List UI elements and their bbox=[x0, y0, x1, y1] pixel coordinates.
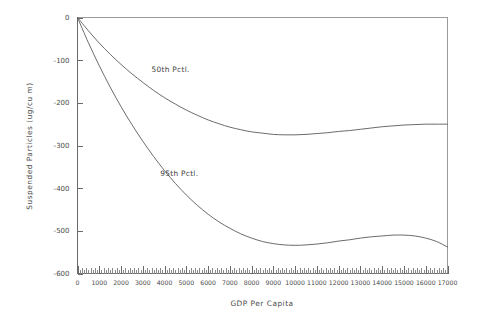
y-tick-label: 0 bbox=[65, 14, 69, 22]
x-tick-label: 8000 bbox=[244, 279, 260, 286]
x-tick-label: 11000 bbox=[307, 279, 327, 286]
x-tick-label: 3000 bbox=[135, 279, 151, 286]
y-tick-label: -300 bbox=[54, 142, 70, 150]
series-line-1 bbox=[78, 18, 448, 135]
x-tick-label: 16000 bbox=[416, 279, 436, 286]
x-tick-label: 12000 bbox=[329, 279, 349, 286]
y-tick-label: -600 bbox=[54, 270, 70, 278]
x-tick-label: 6000 bbox=[200, 279, 216, 286]
x-axis-ticks bbox=[79, 266, 449, 274]
x-tick-label: 0 bbox=[76, 279, 80, 286]
x-tick-label: 2000 bbox=[113, 279, 129, 286]
x-axis-tick-labels: 0100020003000400050006000700080009000100… bbox=[76, 279, 458, 286]
x-axis-title: GDP Per Capita bbox=[230, 299, 293, 308]
y-tick-label: -400 bbox=[54, 185, 70, 193]
y-axis-ticks bbox=[78, 19, 83, 275]
y-axis-tick-labels: 0-100-200-300-400-500-600 bbox=[54, 14, 70, 278]
y-axis-title: Suspended Particles (ug/cu m) bbox=[25, 82, 34, 209]
x-tick-label: 17000 bbox=[438, 279, 458, 286]
x-tick-label: 7000 bbox=[222, 279, 238, 286]
x-tick-label: 9000 bbox=[266, 279, 282, 286]
x-tick-label: 13000 bbox=[351, 279, 371, 286]
series-annotations: 50th Pctl.95th Pctl. bbox=[152, 65, 199, 178]
x-tick-label: 10000 bbox=[285, 279, 305, 286]
x-tick-label: 4000 bbox=[157, 279, 173, 286]
series-label-2: 95th Pctl. bbox=[160, 169, 198, 178]
chart-page: 0100020003000400050006000700080009000100… bbox=[0, 0, 477, 323]
x-tick-label: 1000 bbox=[91, 279, 107, 286]
series-line-2 bbox=[78, 18, 448, 248]
x-tick-label: 14000 bbox=[372, 279, 392, 286]
y-tick-label: -100 bbox=[54, 57, 70, 65]
data-series-group bbox=[78, 18, 448, 248]
y-tick-label: -500 bbox=[54, 227, 70, 235]
x-tick-label: 5000 bbox=[178, 279, 194, 286]
x-tick-label: 15000 bbox=[394, 279, 414, 286]
scatter-line-chart: 0100020003000400050006000700080009000100… bbox=[0, 0, 477, 323]
y-tick-label: -200 bbox=[54, 99, 70, 107]
series-label-1: 50th Pctl. bbox=[152, 65, 190, 74]
